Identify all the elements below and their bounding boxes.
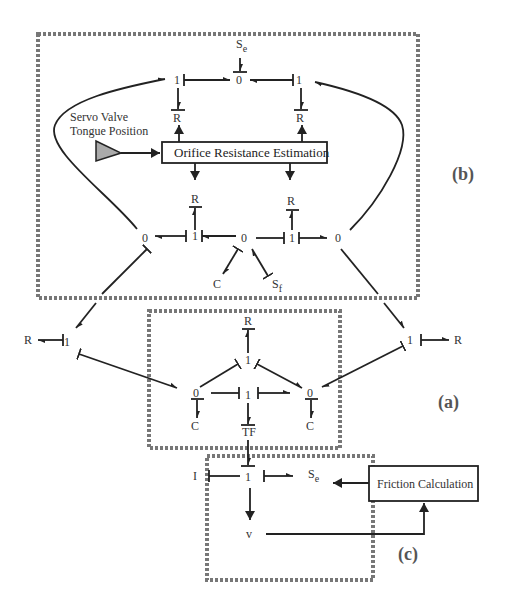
region-c-box xyxy=(207,456,373,580)
b-top-1-left: 1 xyxy=(174,73,180,87)
region-a-label: (a) xyxy=(438,392,459,413)
b-0-center: 0 xyxy=(241,231,247,245)
c-I: I xyxy=(193,469,197,483)
b-sf-node: Sf xyxy=(272,277,283,294)
orifice-resistance-label: Orifice Resistance Estimation xyxy=(174,145,330,160)
a-C-right: C xyxy=(306,419,314,433)
tongue-position-label: Tongue Position xyxy=(70,124,148,138)
b-top-0: 0 xyxy=(236,73,242,87)
a-0-right: 0 xyxy=(307,386,313,400)
a-0-left: 0 xyxy=(193,386,199,400)
R-far-right: R xyxy=(454,333,462,347)
velocity-feedback-line xyxy=(266,503,424,534)
one-right: 1 xyxy=(407,333,413,347)
region-b-label: (b) xyxy=(452,164,474,185)
a-C-left: C xyxy=(191,419,199,433)
servo-valve-label: Servo Valve xyxy=(70,110,128,124)
b-top-1-right: 1 xyxy=(296,73,302,87)
b-R-mid-right: R xyxy=(287,194,295,208)
b-R-top-right: R xyxy=(296,111,304,125)
servo-input-triangle-icon xyxy=(96,141,121,161)
region-b-box xyxy=(38,34,418,298)
R-far-left: R xyxy=(24,333,32,347)
b-R-top-left: R xyxy=(173,111,181,125)
b-1-left: 1 xyxy=(192,229,198,243)
a-1-top: 1 xyxy=(245,353,251,367)
a-1-mid: 1 xyxy=(245,388,251,402)
region-c-label: (c) xyxy=(398,544,418,565)
b-0-right: 0 xyxy=(335,231,341,245)
one-left: 1 xyxy=(64,335,70,349)
b-1-right: 1 xyxy=(289,231,295,245)
c-1: 1 xyxy=(245,470,251,484)
a-R: R xyxy=(244,314,252,328)
c-v: v xyxy=(246,527,252,541)
b-R-mid-left: R xyxy=(191,192,199,206)
b-0-left: 0 xyxy=(142,231,148,245)
b-se-node: Se xyxy=(236,37,248,54)
b-C: C xyxy=(213,277,221,291)
friction-calculation-label: Friction Calculation xyxy=(377,477,473,491)
c-se-node: Se xyxy=(308,467,320,484)
bond-graph-diagram: (b) (a) (c) Se 1 0 1 R R Servo Valve Ton… xyxy=(0,0,505,595)
a-TF: TF xyxy=(242,425,256,439)
